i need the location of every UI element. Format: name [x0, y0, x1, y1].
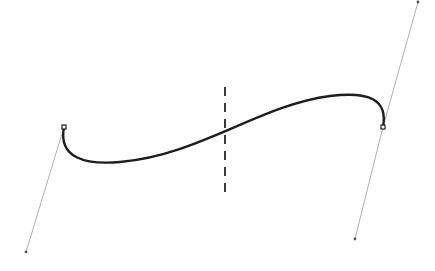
artboard[interactable] — [0, 0, 435, 271]
anchor-point-left[interactable] — [62, 125, 66, 129]
bezier-path[interactable] — [63, 95, 384, 163]
anchor-points[interactable] — [62, 125, 385, 129]
control-points[interactable] — [25, 1, 420, 254]
vector-canvas[interactable] — [0, 0, 435, 271]
control-point-right-upper[interactable] — [417, 1, 420, 4]
handle-line-right-upper — [383, 2, 418, 127]
handle-line-left — [26, 127, 64, 252]
anchor-point-right[interactable] — [381, 125, 385, 129]
control-point-left[interactable] — [25, 251, 28, 254]
handle-lines — [26, 2, 418, 252]
control-point-right-lower[interactable] — [354, 238, 357, 241]
handle-line-right-lower — [355, 127, 383, 239]
